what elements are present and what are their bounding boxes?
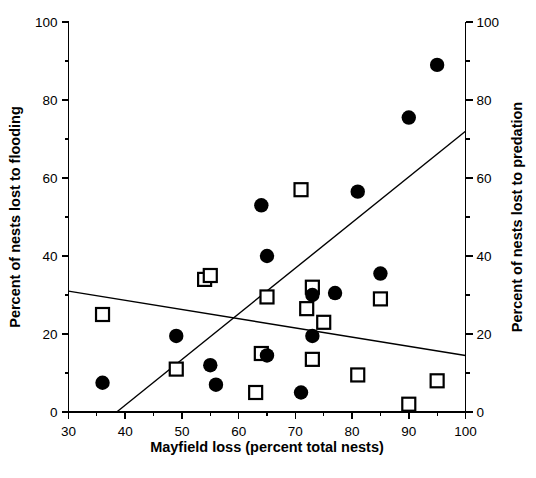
- data-point-square: [351, 368, 364, 381]
- data-point-circle: [328, 286, 342, 300]
- data-point-circle: [430, 58, 444, 72]
- left-axis: 020406080100: [35, 15, 69, 420]
- axis-tick-label: 40: [477, 249, 492, 264]
- data-point-square: [170, 363, 183, 376]
- y-axis-right-title: Percent of nests lost to predation: [509, 102, 525, 332]
- axis-tick-label: 90: [401, 424, 416, 439]
- axis-tick-label: 0: [50, 405, 58, 420]
- figure-container: 020406080100 020406080100 30405060708090…: [0, 0, 536, 478]
- axis-tick-label: 80: [42, 93, 57, 108]
- data-point-circle: [305, 288, 319, 302]
- axis-tick-label: 20: [477, 327, 492, 342]
- flooding-data-markers: [96, 183, 444, 411]
- axis-tick-label: 50: [174, 424, 189, 439]
- data-point-square: [261, 290, 274, 303]
- axis-tick-label: 40: [42, 249, 57, 264]
- scatter-plot: 020406080100 020406080100 30405060708090…: [0, 0, 536, 478]
- axis-tick-label: 60: [231, 424, 246, 439]
- data-point-circle: [351, 184, 365, 198]
- data-point-circle: [169, 329, 183, 343]
- data-point-square: [204, 269, 217, 282]
- axis-tick-label: 30: [61, 424, 76, 439]
- bottom-axis: 30405060708090100: [61, 412, 477, 439]
- data-point-square: [96, 308, 109, 321]
- data-point-circle: [203, 358, 217, 372]
- bottom-axis-ticks: [69, 412, 466, 419]
- data-point-circle: [373, 266, 387, 280]
- data-point-square: [295, 183, 308, 196]
- left-axis-ticks: [62, 22, 69, 412]
- data-point-circle: [95, 376, 109, 390]
- data-point-square: [317, 316, 330, 329]
- data-point-circle: [254, 198, 268, 212]
- axis-tick-label: 60: [477, 171, 492, 186]
- data-point-square: [374, 292, 387, 305]
- right-axis: 020406080100: [466, 15, 500, 420]
- axis-tick-label: 20: [42, 327, 57, 342]
- caption-strip: [0, 462, 536, 478]
- axis-tick-label: 40: [118, 424, 133, 439]
- axis-tick-label: 100: [477, 15, 500, 30]
- y-axis-left-title: Percent of nests lost to flooding: [7, 106, 23, 328]
- left-axis-tick-labels: 020406080100: [35, 15, 58, 420]
- data-point-square: [431, 374, 444, 387]
- data-point-circle: [260, 249, 274, 263]
- bottom-axis-tick-labels: 30405060708090100: [61, 424, 477, 439]
- data-point-circle: [294, 385, 308, 399]
- axis-tick-label: 80: [477, 93, 492, 108]
- axis-tick-label: 60: [42, 171, 57, 186]
- data-point-circle: [305, 329, 319, 343]
- data-point-square: [300, 302, 313, 315]
- right-axis-ticks: [466, 22, 473, 412]
- data-point-circle: [209, 378, 223, 392]
- right-axis-tick-labels: 020406080100: [477, 15, 500, 420]
- predation-data-markers: [95, 58, 444, 400]
- axis-tick-label: 100: [454, 424, 477, 439]
- data-point-square: [402, 398, 415, 411]
- data-point-circle: [260, 348, 274, 362]
- axis-tick-label: 0: [477, 405, 485, 420]
- data-point-square: [249, 386, 262, 399]
- x-axis-title: Mayfield loss (percent total nests): [150, 439, 384, 455]
- axis-tick-label: 100: [35, 15, 58, 30]
- data-point-circle: [402, 110, 416, 124]
- axis-tick-label: 80: [345, 424, 360, 439]
- regression-lines: [69, 131, 466, 412]
- axis-tick-label: 70: [288, 424, 303, 439]
- data-point-square: [306, 353, 319, 366]
